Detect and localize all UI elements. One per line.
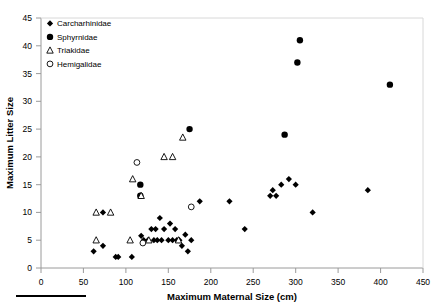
x-tick-label-100: 100 — [119, 277, 133, 287]
y-tick-label-20: 20 — [23, 152, 33, 162]
y-tick-label-5: 5 — [27, 235, 32, 245]
legend-label: Carcharhinidae — [57, 19, 112, 28]
chart-figure: 0 5 10 15 20 25 30 35 40 45 0 50 100 — [0, 0, 440, 305]
legend-label: Hemigalidae — [57, 60, 102, 69]
x-tick-label-150: 150 — [161, 277, 175, 287]
data-point — [140, 240, 146, 246]
x-tick-label-450: 450 — [416, 277, 430, 287]
x-tick-label-300: 300 — [289, 277, 303, 287]
data-point — [387, 81, 393, 87]
data-point — [186, 126, 192, 132]
y-tick-label-10: 10 — [23, 207, 33, 217]
scatter-plot-svg: 0 5 10 15 20 25 30 35 40 45 0 50 100 — [0, 0, 440, 305]
y-tick-label-35: 35 — [23, 69, 33, 79]
y-tick-label-0: 0 — [27, 263, 32, 273]
x-axis-title: Maximum Maternal Size (cm) — [167, 291, 297, 302]
y-tick-label-25: 25 — [23, 124, 33, 134]
x-tick-label-400: 400 — [374, 277, 388, 287]
x-tick-label-50: 50 — [79, 277, 89, 287]
y-tick-label-15: 15 — [23, 180, 33, 190]
legend-label: Triakidae — [57, 46, 90, 55]
x-tick-label-250: 250 — [246, 277, 260, 287]
legend-label: Sphyrnidae — [57, 33, 98, 42]
x-tick-label-350: 350 — [331, 277, 345, 287]
data-point — [134, 160, 140, 166]
y-tick-label-45: 45 — [23, 13, 33, 23]
legend-marker-open-circle — [47, 61, 53, 67]
y-tick-label-30: 30 — [23, 96, 33, 106]
legend-marker-filled-circle — [47, 34, 53, 40]
data-point — [281, 131, 287, 137]
data-point — [297, 37, 303, 43]
data-point — [188, 204, 194, 210]
data-point — [137, 181, 143, 187]
x-tick-label-0: 0 — [39, 277, 44, 287]
data-point — [294, 59, 300, 65]
y-axis-title: Maximum Litter Size — [4, 97, 15, 189]
y-tick-label-40: 40 — [23, 41, 33, 51]
legend-item-carcharhinidae: Carcharhinidae — [47, 19, 112, 28]
x-tick-label-200: 200 — [204, 277, 218, 287]
